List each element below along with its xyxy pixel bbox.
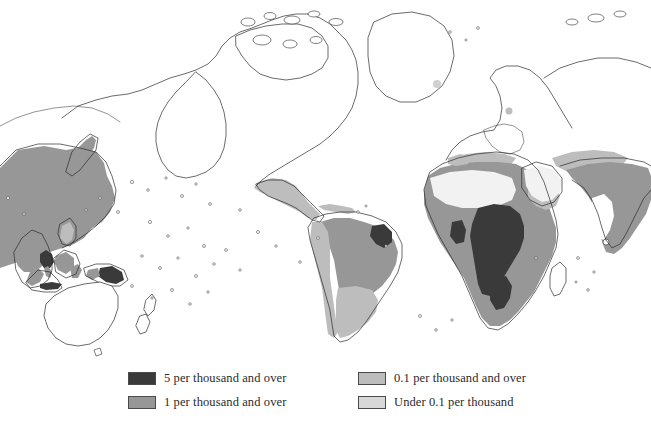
coastline-tasmania (94, 348, 102, 356)
coastline-canadian-arctic (236, 24, 328, 80)
world-map-svg (0, 0, 651, 360)
swatch-1-per-thousand (128, 396, 156, 409)
coastline-mediterranean-north (484, 124, 524, 154)
map-legend: 5 per thousand and over 0.1 per thousand… (128, 366, 558, 414)
coastline-new-zealand-south (136, 314, 150, 334)
swatch-0-1-per-thousand (358, 372, 386, 385)
fill-mexico-central-america (254, 178, 320, 220)
fill-southern-cone (336, 286, 378, 338)
arctic-islands (241, 11, 626, 48)
fill-west-papua (86, 268, 100, 280)
coastline-australia (44, 282, 118, 346)
fill-madagascar (550, 262, 566, 296)
legend-item-1: 0.1 per thousand and over (358, 368, 558, 388)
legend-label-1: 0.1 per thousand and over (394, 372, 526, 385)
swatch-5-per-thousand (128, 372, 156, 385)
fill-iceland (433, 80, 441, 88)
region-americas (254, 178, 398, 338)
legend-item-3: Under 0.1 per thousand (358, 392, 558, 412)
coastline-new-zealand-north (144, 294, 156, 316)
legend-item-0: 5 per thousand and over (128, 368, 328, 388)
legend-label-3: Under 0.1 per thousand (394, 396, 514, 409)
legend-label-0: 5 per thousand and over (164, 372, 286, 385)
region-europe-fills (433, 80, 513, 166)
coastline-canada-hudson (156, 72, 226, 178)
swatch-under-0-1-per-thousand (358, 396, 386, 409)
fill-baltic-spot (506, 108, 513, 115)
region-southeast-asia (14, 222, 124, 290)
world-map-figure: 5 per thousand and over 0.1 per thousand… (0, 0, 651, 421)
legend-item-2: 1 per thousand and over (128, 392, 328, 412)
coastline-far-east-russia (0, 106, 120, 126)
legend-label-2: 1 per thousand and over (164, 396, 286, 409)
coastline-siberia (544, 58, 651, 78)
coastline-greenland (368, 12, 454, 102)
